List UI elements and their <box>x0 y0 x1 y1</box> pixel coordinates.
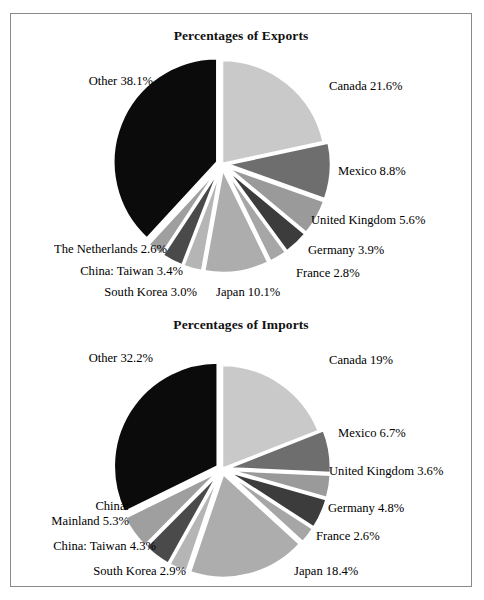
pie-label-south-korea: South Korea 2.9% <box>11 564 186 578</box>
pie-label-china-mainland-line1: China: <box>11 499 129 513</box>
pie-label-mexico: Mexico 8.8% <box>338 164 406 178</box>
pie-label-other: Other 38.1% <box>11 74 153 88</box>
pie-label-france: France 2.6% <box>316 529 380 543</box>
pie-label-germany: Germany 3.9% <box>308 243 384 257</box>
pie-chart-exports: Percentages of Exports Canada 21.6% Mexi… <box>11 14 471 311</box>
pie-label-japan: Japan 10.1% <box>216 285 280 299</box>
pie-label-canada: Canada 19% <box>329 353 393 367</box>
pie-label-south-korea: South Korea 3.0% <box>11 285 197 299</box>
pie-label-the-netherlands: The Netherlands 2.6% <box>11 242 167 256</box>
pie-label-china-taiwan: China: Taiwan 4.3% <box>11 539 156 553</box>
pie-label-france: France 2.8% <box>296 266 360 280</box>
pie-label-china-taiwan: China: Taiwan 3.4% <box>11 264 183 278</box>
pie-label-canada: Canada 21.6% <box>329 79 402 93</box>
pie-label-japan: Japan 18.4% <box>294 564 358 578</box>
pie-label-germany: Germany 4.8% <box>328 501 404 515</box>
pie-chart-imports: Percentages of Imports Canada 19% Mexico… <box>11 311 471 588</box>
pie-label-united-kingdom: United Kingdom 5.6% <box>311 213 425 227</box>
pie-label-china-mainland-line2: Mainland 5.3% <box>11 514 129 528</box>
pie-label-united-kingdom: United Kingdom 3.6% <box>329 464 443 478</box>
pie-label-mexico: Mexico 6.7% <box>338 426 406 440</box>
pie-label-other: Other 32.2% <box>11 351 153 365</box>
figure-frame: Percentages of Exports Canada 21.6% Mexi… <box>10 13 472 587</box>
